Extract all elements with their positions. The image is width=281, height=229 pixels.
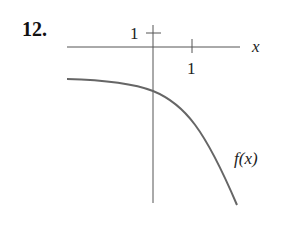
function-graph: 1 1 x f(x) xyxy=(0,0,281,229)
x-axis-label: x xyxy=(251,37,260,56)
curve-label: f(x) xyxy=(234,149,258,168)
function-curve xyxy=(67,79,237,205)
x-tick-label: 1 xyxy=(187,59,196,78)
y-tick-label: 1 xyxy=(130,24,139,43)
